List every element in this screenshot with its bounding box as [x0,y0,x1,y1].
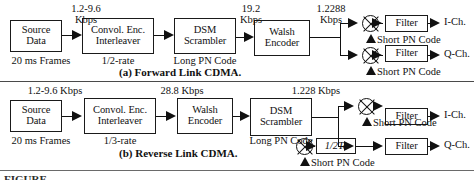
label-source-data-note: 20 ms Frames [2,136,80,147]
label-short-pn-code-q: Short PN Code [377,67,441,78]
arrow-into-filter-q [372,50,382,60]
arrow-into-scrambler [240,111,250,121]
wire-scrambler-to-split [312,117,338,118]
arrow-into-filter-i [372,18,382,28]
block-line-2: Encoder [188,116,222,127]
block-line-1: Filter [395,141,417,152]
block-walsh-encoder: Walsh Encoder [177,98,233,134]
block-line-2: Interleaver [98,116,142,127]
arrow-into-interleaver [72,30,82,40]
label-long-pn-code-note: Long PN Code [233,136,329,147]
rate-line-2: Kbps [233,15,269,26]
label-rate-scrambler-out: 19.2 Kbps [233,4,269,25]
arrow-short-pn-code-i [366,34,376,43]
block-convol-enc-interleaver: Convol. Enc. Interleaver [84,98,156,134]
block-line-1: Filter [395,18,417,29]
label-rate-interleaver-out: 28.8 Kbps [145,86,219,97]
label-source-data-note: 20 ms Frames [2,56,80,67]
arrow-output-q [430,50,440,60]
arrow-output-q [430,141,440,151]
block-source-data: Source Data [10,100,62,132]
wire-walsh-to-split [310,37,340,38]
arrow-into-mult-i [344,101,354,111]
label-rate-source: 1.2-9.6 Kbps [15,86,95,97]
reverse-link-diagram: Source Data Convol. Enc. Interleaver Wal… [0,84,474,180]
arrow-into-filter-i [373,101,383,111]
arrow-into-filter-q [373,141,383,151]
block-dsm-scrambler: DSM Scrambler [250,98,312,136]
label-rate-scrambler-out: 1.228 Kbps [278,86,354,97]
block-filter-i: Filter [385,15,428,32]
label-output-q-channel: Q-Ch. [444,49,470,60]
figure-bottom-rule [0,170,474,171]
block-source-data: Source Data [10,20,62,52]
rate-line-2: Kbps [309,15,353,26]
label-rate-source: 1.2-9.6 Kbps [63,4,109,25]
forward-link-diagram: Source Data Convol. Enc. Interleaver DSM… [0,0,474,82]
arrow-into-mult-q [344,141,354,151]
block-filter-q: Filter [385,138,428,155]
wire-split-vertical [338,106,339,146]
arrow-short-pn-code-i [362,117,372,126]
arrow-into-walsh [244,32,254,42]
block-dsm-scrambler: DSM Scrambler [174,18,236,54]
label-short-pn-code-i: Short PN Code [373,118,437,129]
cdma-link-figure: Source Data Convol. Enc. Interleaver DSM… [0,0,474,180]
wire-split-vertical [340,23,341,55]
block-filter-q: Filter [385,45,428,62]
block-line-2: Scrambler [184,36,226,47]
figure-number-label: FIGURE [4,173,47,180]
arrow-output-i [430,18,440,28]
label-output-i-channel: I-Ch. [444,110,466,121]
label-short-pn-code-i: Short PN Code [377,35,441,46]
figure-divider-rule [0,81,474,82]
arrow-short-pn-code-q [366,66,376,75]
caption-reverse-link: (b) Reverse Link CDMA. [119,147,238,159]
block-line-2: Data [26,36,45,47]
block-line-1: Filter [395,48,417,59]
label-output-q-channel: Q-Ch. [444,140,470,151]
block-line-2: Interleaver [96,36,140,47]
arrow-into-interleaver [72,111,82,121]
arrow-into-walsh [166,111,176,121]
block-line-2: Scrambler [260,117,302,128]
label-short-pn-code-q: Short PN Code [311,158,375,169]
arrow-short-pn-code-q [300,157,310,166]
block-line-2: Encoder [265,38,299,49]
arrow-into-mult-q [348,50,358,60]
label-rate-walsh-out: 1.2288 Kbps [309,4,353,25]
label-output-i-channel: I-Ch. [444,17,466,28]
arrow-into-scrambler [164,30,174,40]
block-line-2: Data [26,116,45,127]
caption-forward-link: (a) Forward Link CDMA. [119,66,241,78]
label-coding-rate-note: 1/3-rate [90,136,150,147]
rate-line-2: Kbps [63,15,109,26]
